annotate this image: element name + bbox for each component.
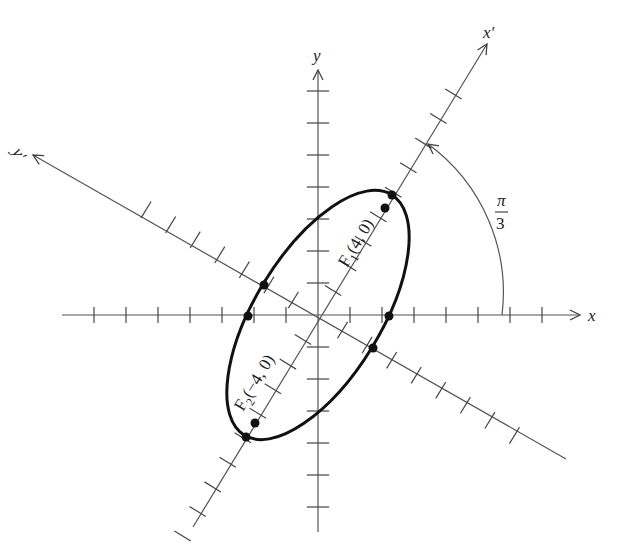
vertex-top-point: [388, 191, 397, 200]
tick-mark: [485, 412, 495, 428]
angle-numerator: π: [497, 191, 506, 210]
x-prime-axis: [174, 44, 487, 541]
focus-f2-label: F2(−4, 0): [230, 351, 282, 416]
focus-f2-point: [251, 419, 260, 428]
tick-mark: [174, 531, 190, 541]
y-prime-axis: [33, 155, 566, 459]
tick-mark: [250, 408, 266, 418]
y-axis-label: y: [311, 46, 321, 65]
tick-mark: [265, 384, 281, 394]
x-intercept-left-point: [244, 312, 253, 321]
tick-mark: [387, 352, 397, 368]
rotation-angle-arc: [428, 144, 503, 315]
focus-f1-point: [381, 204, 390, 213]
x-prime-axis-label: x′: [482, 23, 495, 42]
tick-mark: [190, 232, 200, 248]
y-prime-axis-label: y′: [7, 143, 30, 164]
vertex-bottom-point: [242, 433, 251, 442]
x-intercept-right-point: [385, 312, 394, 321]
y-axis: [307, 70, 329, 532]
tick-mark: [220, 457, 236, 467]
tick-mark: [141, 201, 151, 217]
tick-mark: [215, 247, 225, 263]
svg-text:F1(4, 0): F1(4, 0): [334, 215, 381, 272]
rotated-ellipse-diagram: y x x′ y′ π 3 F1(4, 0) F2(−4, 0): [0, 0, 638, 546]
focus-f1-label: F1(4, 0): [334, 215, 381, 272]
tick-mark: [189, 506, 205, 516]
angle-label: π 3: [495, 191, 508, 233]
covertex-right-point: [369, 344, 378, 353]
x-axis-label: x: [587, 306, 596, 325]
y-prime-axis-ticks: [141, 201, 519, 443]
tick-mark: [166, 217, 176, 233]
svg-text:F2(−4, 0): F2(−4, 0): [230, 351, 282, 416]
covertex-left-point: [260, 281, 269, 290]
tick-mark: [204, 482, 220, 492]
angle-denominator: 3: [496, 214, 505, 233]
